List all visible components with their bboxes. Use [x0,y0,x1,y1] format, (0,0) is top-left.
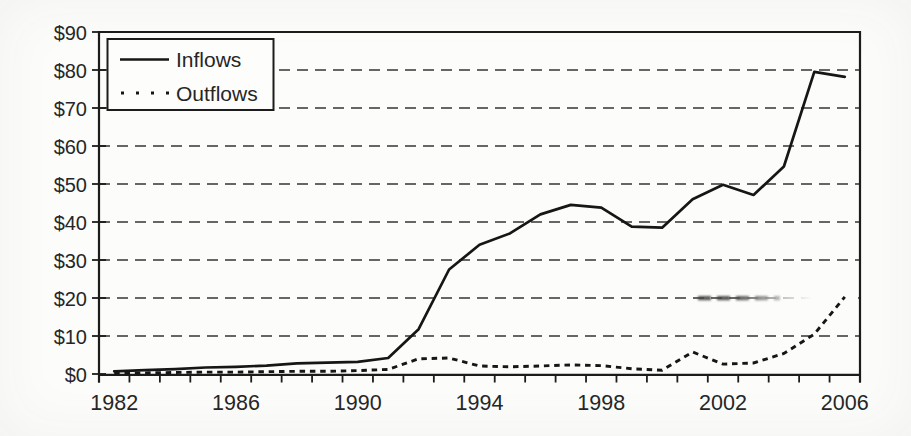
legend-label-outflows: Outflows [176,82,258,105]
y-tick-label: $70 [54,98,87,120]
x-tick-label: 1982 [90,391,138,415]
y-tick-label: $90 [54,22,87,44]
y-tick-label: $60 [54,136,87,158]
x-tick-label: 2006 [821,391,869,415]
x-tick-label: 1998 [577,391,625,415]
y-tick-label: $0 [65,364,87,386]
y-tick-label: $30 [54,250,87,272]
x-tick-label: 2002 [699,391,747,415]
outflows-line [114,297,845,373]
x-tick-label: 1990 [334,391,382,415]
legend-label-inflows: Inflows [176,48,241,71]
x-tick-label: 1986 [212,391,260,415]
gridline-fadeout [735,291,858,305]
y-tick-label: $10 [54,326,87,348]
scan-artifact [698,291,858,305]
y-tick-label: $20 [54,288,87,310]
y-tick-label: $80 [54,60,87,82]
inflows-outflows-line-chart: $0$10$20$30$40$50$60$70$80$9019821986199… [0,0,911,436]
x-tick-label: 1994 [456,391,504,415]
y-tick-label: $50 [54,174,87,196]
chart-figure: $0$10$20$30$40$50$60$70$80$9019821986199… [0,0,911,436]
legend: Inflows Outflows [108,39,274,110]
y-tick-label: $40 [54,212,87,234]
